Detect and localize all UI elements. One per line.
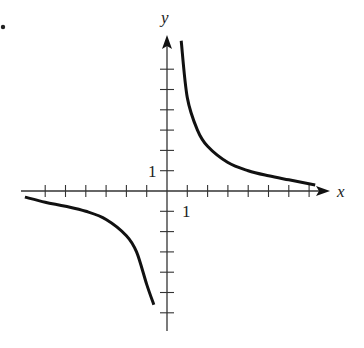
hyperbola-graph: x y 1 1 xyxy=(0,0,364,348)
x-tick-label-1: 1 xyxy=(182,202,191,221)
y-axis-label: y xyxy=(159,8,169,27)
x-axis-label: x xyxy=(336,182,345,201)
bullet-marker xyxy=(1,25,5,29)
y-tick-label-1: 1 xyxy=(148,162,157,181)
curve-right-branch xyxy=(181,41,315,185)
curve-left-branch xyxy=(25,197,154,305)
